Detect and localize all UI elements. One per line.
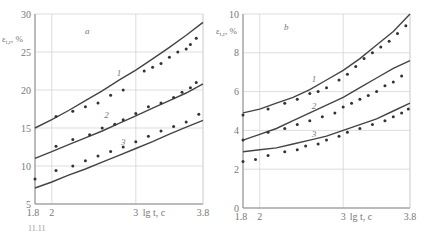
data-point-2: [101, 127, 104, 130]
data-point-3: [172, 125, 175, 128]
y-axis-label: εt,r, %: [216, 26, 237, 37]
data-point-1: [363, 57, 366, 60]
data-point-1: [55, 115, 58, 118]
x-tick-label: 1.8: [235, 211, 248, 222]
data-point-1: [242, 113, 245, 116]
data-point-1: [283, 102, 286, 105]
data-point-3: [71, 165, 74, 168]
x-tick-label: 1.8: [27, 207, 40, 218]
data-point-2: [333, 111, 336, 114]
data-point-1: [185, 47, 188, 50]
data-point-3: [325, 139, 328, 142]
data-point-1: [71, 110, 74, 113]
curve-2: [35, 84, 203, 158]
curve-label: 1: [312, 74, 317, 84]
data-point-2: [189, 86, 192, 89]
x-tick-label: 2: [257, 211, 262, 222]
y-tick-label: 2: [234, 164, 239, 175]
data-point-2: [342, 106, 345, 109]
figure: 510152025301.8233.8εt,r, %alg t, c123 02…: [0, 0, 427, 233]
data-point-3: [358, 127, 361, 130]
data-point-3: [34, 177, 37, 180]
data-point-1: [371, 51, 374, 54]
data-point-2: [400, 75, 403, 78]
data-point-2: [172, 96, 175, 99]
data-point-3: [160, 130, 163, 133]
curve-1: [243, 14, 410, 113]
data-point-1: [338, 78, 341, 81]
y-tick-label: 20: [21, 85, 31, 96]
data-point-1: [195, 37, 198, 40]
data-point-3: [197, 113, 200, 116]
data-point-1: [151, 66, 154, 69]
curve-label: 1: [117, 68, 122, 78]
data-point-1: [122, 89, 125, 92]
data-point-3: [55, 169, 58, 172]
data-point-2: [296, 123, 299, 126]
chart-panel-a: 510152025301.8233.8εt,r, %alg t, c123: [2, 9, 209, 219]
curve-label: 3: [120, 137, 126, 147]
data-point-1: [308, 92, 311, 95]
data-point-1: [168, 56, 171, 59]
data-point-3: [109, 150, 112, 153]
data-point-2: [242, 139, 245, 142]
x-tick-label: 3: [133, 207, 138, 218]
curve-label: 2: [104, 110, 109, 120]
data-point-2: [283, 127, 286, 130]
y-tick-label: 8: [234, 47, 239, 58]
data-point-1: [97, 101, 100, 104]
data-point-1: [84, 105, 87, 108]
panel-label: a: [85, 26, 90, 36]
data-point-3: [407, 108, 410, 111]
data-point-1: [317, 90, 320, 93]
x-tick-label: 2: [49, 207, 54, 218]
x-tick-label: 3.8: [197, 207, 210, 218]
data-point-2: [367, 94, 370, 97]
x-tick-label: 3.8: [404, 211, 417, 222]
data-point-1: [176, 51, 179, 54]
data-point-2: [55, 145, 58, 148]
y-tick-label: 10: [21, 161, 31, 172]
data-point-2: [358, 98, 361, 101]
data-point-3: [185, 120, 188, 123]
data-point-2: [267, 131, 270, 134]
data-point-1: [404, 24, 407, 27]
data-point-1: [296, 98, 299, 101]
data-point-2: [147, 105, 150, 108]
data-point-3: [97, 155, 100, 158]
data-point-1: [267, 108, 270, 111]
y-tick-label: 30: [21, 9, 31, 20]
data-point-1: [160, 62, 163, 65]
y-tick-label: 15: [21, 123, 31, 134]
data-point-1: [325, 86, 328, 89]
x-axis-label: lg t, c: [350, 211, 373, 222]
curve-2: [243, 61, 410, 141]
data-point-2: [392, 80, 395, 83]
x-tick-label: 3: [341, 211, 346, 222]
data-point-3: [296, 148, 299, 151]
data-point-1: [346, 73, 349, 76]
data-point-2: [375, 90, 378, 93]
data-point-1: [354, 65, 357, 68]
data-point-2: [350, 102, 353, 105]
data-point-3: [304, 144, 307, 147]
data-point-2: [308, 119, 311, 122]
data-point-1: [396, 32, 399, 35]
curve-label: 2: [312, 101, 317, 111]
data-point-3: [242, 160, 245, 163]
chart-panel-b: 02468101.8233.8εt,r, %blg t, c123: [216, 9, 416, 223]
data-point-3: [267, 154, 270, 157]
data-point-3: [134, 140, 137, 143]
data-point-3: [371, 123, 374, 126]
y-axis-label: εt,r, %: [2, 34, 23, 45]
data-point-1: [143, 70, 146, 73]
y-tick-label: 10: [229, 9, 239, 20]
data-point-3: [400, 111, 403, 114]
data-point-2: [321, 115, 324, 118]
data-point-3: [392, 115, 395, 118]
data-point-1: [109, 94, 112, 97]
curve-3: [35, 120, 203, 188]
data-point-2: [134, 112, 137, 115]
data-point-3: [283, 150, 286, 153]
y-tick-label: 4: [234, 125, 239, 136]
